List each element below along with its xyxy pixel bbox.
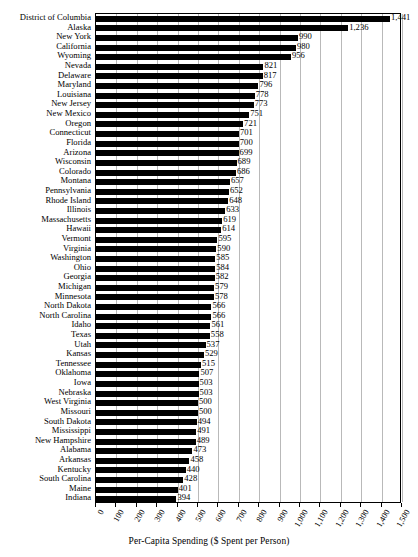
bar-row bbox=[96, 177, 400, 187]
bar bbox=[96, 448, 192, 454]
bar-row bbox=[96, 235, 400, 245]
x-tick-label: 1,300 bbox=[354, 508, 371, 529]
bar bbox=[96, 275, 215, 281]
bar-row bbox=[96, 312, 400, 322]
x-tick-label: 1,100 bbox=[313, 508, 330, 529]
bar-row bbox=[96, 62, 400, 72]
bar bbox=[96, 342, 206, 348]
x-tick-label: 1,200 bbox=[333, 508, 350, 529]
bar-row bbox=[96, 302, 400, 312]
bar-row bbox=[96, 369, 400, 379]
bar bbox=[96, 419, 197, 425]
bar bbox=[96, 93, 255, 99]
tick-mark bbox=[299, 503, 300, 507]
tick-mark bbox=[258, 503, 259, 507]
tick-mark bbox=[115, 503, 116, 507]
bar bbox=[96, 121, 243, 127]
bar bbox=[96, 285, 214, 291]
x-tick-label: 700 bbox=[235, 508, 249, 523]
bar-row bbox=[96, 273, 400, 283]
bar bbox=[96, 496, 176, 502]
bar bbox=[96, 102, 254, 108]
bar-row bbox=[96, 379, 400, 389]
bar-row bbox=[96, 283, 400, 293]
bar bbox=[96, 410, 198, 416]
plot-area bbox=[95, 13, 401, 503]
bar-row bbox=[96, 245, 400, 255]
bar-row bbox=[96, 81, 400, 91]
bar bbox=[96, 237, 217, 243]
bar bbox=[96, 246, 216, 252]
tick-mark bbox=[177, 503, 178, 507]
bar bbox=[96, 439, 196, 445]
bar bbox=[96, 160, 237, 166]
bar bbox=[96, 256, 215, 262]
tick-mark bbox=[401, 503, 402, 507]
tick-mark bbox=[217, 503, 218, 507]
tick-mark bbox=[340, 503, 341, 507]
bar-value-label: 956 bbox=[290, 51, 305, 61]
tick-mark bbox=[136, 503, 137, 507]
bar bbox=[96, 198, 228, 204]
per-capita-spending-bar-chart: District of ColumbiaAlaskaNew YorkCalifo… bbox=[0, 0, 418, 557]
x-tick-label: 1,400 bbox=[374, 508, 391, 529]
bar bbox=[96, 189, 229, 195]
bar-row bbox=[96, 187, 400, 197]
bar-row bbox=[96, 341, 400, 351]
x-tick-label: 800 bbox=[255, 508, 269, 523]
bar-row bbox=[96, 427, 400, 437]
bar-row bbox=[96, 475, 400, 485]
bar bbox=[96, 314, 211, 320]
bar bbox=[96, 131, 239, 137]
bar bbox=[96, 208, 225, 214]
bar bbox=[96, 294, 214, 300]
bar bbox=[96, 73, 263, 79]
bar bbox=[96, 83, 258, 89]
bar-value-label: 1,441 bbox=[389, 13, 410, 23]
gridline bbox=[402, 14, 403, 502]
bar-row bbox=[96, 437, 400, 447]
bar-row bbox=[96, 321, 400, 331]
x-tick-label: 400 bbox=[173, 508, 187, 523]
x-axis-title: Per-Capita Spending ($ Spent per Person) bbox=[0, 536, 418, 546]
bar bbox=[96, 429, 196, 435]
x-tick-label: 500 bbox=[194, 508, 208, 523]
bar bbox=[96, 304, 211, 310]
bar-value-label: 1,236 bbox=[347, 23, 368, 33]
bar-row bbox=[96, 264, 400, 274]
bar-row bbox=[96, 72, 400, 82]
bar-row bbox=[96, 206, 400, 216]
bar bbox=[96, 150, 239, 156]
bar-row bbox=[96, 43, 400, 53]
bar bbox=[96, 112, 249, 118]
bar bbox=[96, 64, 263, 70]
bar bbox=[96, 227, 221, 233]
x-tick-label: 1,000 bbox=[293, 508, 310, 529]
bar bbox=[96, 16, 390, 22]
x-tick-label: 300 bbox=[153, 508, 167, 523]
bar bbox=[96, 141, 239, 147]
bar-row bbox=[96, 389, 400, 399]
x-tick-label: 100 bbox=[112, 508, 126, 523]
tick-mark bbox=[156, 503, 157, 507]
y-axis-category-labels: District of ColumbiaAlaskaNew YorkCalifo… bbox=[0, 13, 93, 503]
tick-mark bbox=[319, 503, 320, 507]
bar bbox=[96, 45, 296, 51]
category-label: Indiana bbox=[65, 493, 91, 503]
bar-row bbox=[96, 350, 400, 360]
bar bbox=[96, 487, 178, 493]
bar-row bbox=[96, 446, 400, 456]
bar-row bbox=[96, 254, 400, 264]
tick-mark bbox=[360, 503, 361, 507]
tick-mark bbox=[197, 503, 198, 507]
bar bbox=[96, 352, 204, 358]
bar bbox=[96, 54, 291, 60]
x-tick-label: 0 bbox=[96, 508, 106, 516]
tick-mark bbox=[381, 503, 382, 507]
tick-mark bbox=[279, 503, 280, 507]
bar-row bbox=[96, 360, 400, 370]
bar bbox=[96, 35, 298, 41]
bar-row bbox=[96, 216, 400, 226]
bar bbox=[96, 218, 222, 224]
bar bbox=[96, 391, 199, 397]
